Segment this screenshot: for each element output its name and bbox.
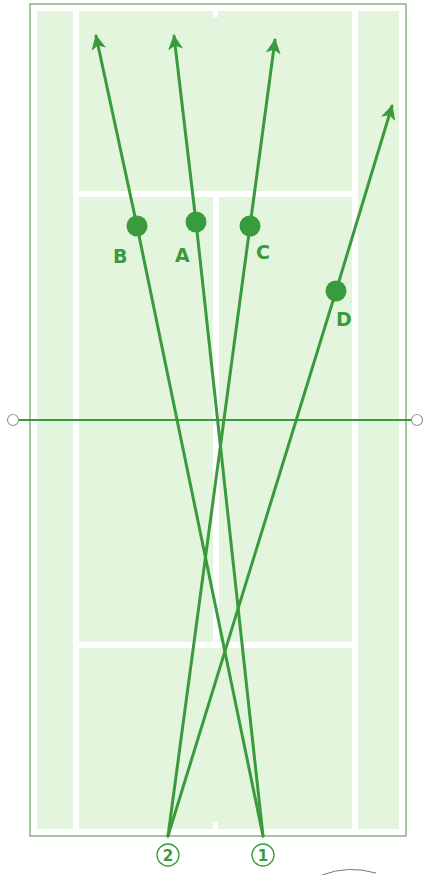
target-dot-A: [186, 212, 207, 233]
player-marker-2: 2: [157, 844, 179, 866]
player-marker-1: 1: [252, 844, 274, 866]
target-dot-C: [240, 216, 261, 237]
target-label-A: A: [175, 244, 190, 266]
target-label-B: B: [113, 245, 127, 267]
target-label-C: C: [256, 241, 270, 263]
net-post-left-icon: [8, 415, 19, 426]
target-dot-B: [127, 216, 148, 237]
tennis-court-diagram: B A C D 2 1: [0, 0, 423, 875]
target-label-D: D: [336, 308, 352, 330]
player-2-label: 2: [163, 847, 173, 865]
net-post-right-icon: [412, 415, 423, 426]
center-mark-top: [213, 5, 218, 17]
player-1-label: 1: [258, 847, 268, 865]
center-mark-bottom: [213, 822, 218, 834]
target-dot-D: [326, 281, 347, 302]
page-arc-decoration: [322, 869, 376, 875]
